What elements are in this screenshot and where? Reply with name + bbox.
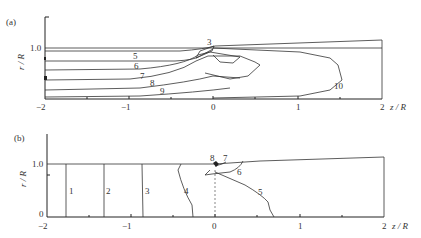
- svg-text:3: 3: [207, 37, 212, 47]
- svg-text:2: 2: [106, 186, 111, 196]
- panel-a-x-label: z / R: [389, 102, 407, 112]
- svg-text:5: 5: [133, 51, 138, 61]
- y-tick-label: 1.0: [32, 159, 44, 169]
- panel-a-y-label: r / R: [16, 53, 26, 70]
- y-tick-label: 1.0: [30, 43, 42, 53]
- contour-labels-a: 3 5 6 7 8 9 10: [133, 37, 344, 96]
- panel-b: (b) −2 −1 0 1 2 z / R 0 1.0 r / R: [14, 133, 409, 231]
- contour-b-5: [215, 172, 274, 217]
- figure-canvas: (a) −2 −1 0 1 2 z / R 1.0 r / R: [0, 0, 421, 238]
- svg-text:4: 4: [184, 186, 189, 196]
- svg-text:5: 5: [258, 187, 263, 197]
- x-tick-label: 1: [298, 221, 303, 231]
- contour-labels-b: 1 2 3 4 5 6 7 8: [69, 153, 263, 197]
- y-tick-label: 0: [39, 209, 44, 219]
- x-tick-label: −1: [122, 221, 132, 231]
- svg-text:6: 6: [237, 167, 242, 177]
- x-tick-label: 0: [211, 102, 216, 112]
- x-tick-label: 0: [212, 221, 217, 231]
- panel-b-x-label: z / R: [391, 221, 409, 231]
- contour-b-3: [142, 164, 143, 217]
- x-tick-label: −2: [36, 102, 46, 112]
- svg-text:1: 1: [69, 186, 74, 196]
- svg-text:8: 8: [210, 153, 215, 163]
- svg-text:10: 10: [334, 81, 344, 91]
- svg-text:6: 6: [134, 61, 139, 71]
- svg-text:8: 8: [150, 78, 155, 88]
- x-tick-label: −2: [38, 221, 48, 231]
- x-tick-label: 2: [380, 102, 385, 112]
- x-tick-label: −1: [121, 102, 131, 112]
- x-tick-label: 2: [382, 221, 387, 231]
- panel-b-label: (b): [14, 133, 25, 143]
- x-tick-label: 1: [296, 102, 301, 112]
- svg-text:7: 7: [223, 153, 228, 163]
- svg-text:9: 9: [160, 86, 165, 96]
- panel-a-label: (a): [6, 17, 16, 27]
- panel-b-y-label: r / R: [18, 170, 28, 187]
- contour-a-top: [45, 40, 382, 51]
- svg-text:7: 7: [140, 71, 145, 81]
- svg-text:3: 3: [145, 186, 150, 196]
- panel-a: (a) −2 −1 0 1 2 z / R 1.0 r / R: [6, 17, 407, 112]
